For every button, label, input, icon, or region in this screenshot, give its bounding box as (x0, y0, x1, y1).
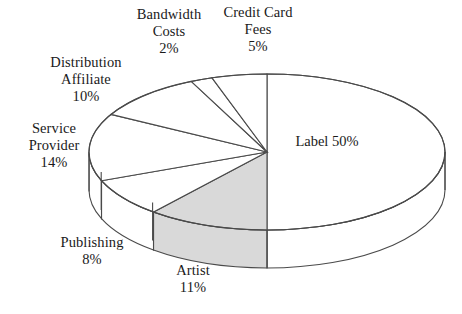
distribution-affiliate-name-line2: Affiliate (36, 71, 136, 88)
credit-card-fees-name-line2: Fees (212, 21, 304, 38)
slice-label-publishing: Publishing 8% (50, 234, 134, 268)
distribution-affiliate-percent: 10% (36, 88, 136, 105)
bandwidth-costs-percent: 2% (126, 40, 212, 57)
publishing-percent: 8% (50, 251, 134, 268)
slice-label-label: Label 50% (292, 133, 362, 150)
credit-card-fees-name-line1: Credit Card (212, 4, 304, 21)
publishing-name: Publishing (50, 234, 134, 251)
slice-label-bandwidth-costs: Bandwidth Costs 2% (126, 6, 212, 56)
service-provider-percent: 14% (14, 154, 94, 171)
bandwidth-costs-name-line1: Bandwidth (126, 6, 212, 23)
slice-label-distribution-affiliate: Distribution Affiliate 10% (36, 54, 136, 104)
pie-chart-figure: Bandwidth Costs 2% Credit Card Fees 5% D… (0, 0, 462, 314)
label-slice-name: Label (295, 133, 328, 149)
service-provider-name-line1: Service (14, 120, 94, 137)
slice-label-service-provider: Service Provider 14% (14, 120, 94, 170)
artist-name: Artist (162, 262, 224, 279)
distribution-affiliate-name-line1: Distribution (36, 54, 136, 71)
service-provider-name-line2: Provider (14, 137, 94, 154)
bandwidth-costs-name-line2: Costs (126, 23, 212, 40)
credit-card-fees-percent: 5% (212, 38, 304, 55)
pie-top-face (89, 74, 445, 230)
label-slice-percent: 50% (332, 133, 359, 149)
slice-label-artist: Artist 11% (162, 262, 224, 296)
slice-label-credit-card-fees: Credit Card Fees 5% (212, 4, 304, 54)
artist-percent: 11% (162, 279, 224, 296)
